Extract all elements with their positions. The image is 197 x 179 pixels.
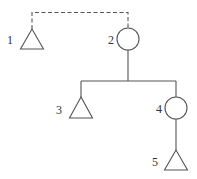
partnership-line-1-2: [32, 13, 128, 30]
node-1: 1: [7, 29, 44, 49]
triangle-icon: [165, 150, 188, 170]
node-label-3: 3: [56, 103, 62, 117]
node-5: 5: [152, 150, 188, 170]
node-label-1: 1: [7, 33, 13, 47]
triangle-icon: [21, 29, 44, 49]
circle-icon: [117, 28, 139, 50]
node-label-5: 5: [152, 155, 158, 169]
node-3: 3: [56, 97, 93, 118]
node-label-4: 4: [156, 102, 162, 116]
node-2: 2: [108, 28, 139, 50]
node-4: 4: [156, 97, 187, 119]
triangle-icon: [70, 97, 93, 118]
node-label-2: 2: [108, 33, 114, 47]
pedigree-diagram: 1 2 3 4 5: [0, 0, 197, 179]
circle-icon: [165, 97, 187, 119]
